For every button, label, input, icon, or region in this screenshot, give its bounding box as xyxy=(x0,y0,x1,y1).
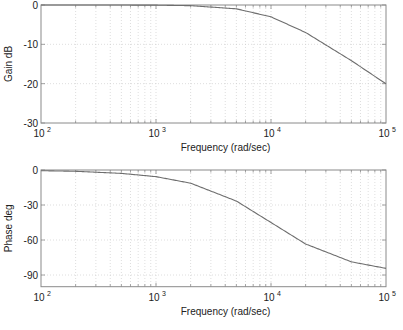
gain-axes: 0-10-20-30102103104105Frequency (rad/sec… xyxy=(3,0,396,153)
x-tick-label: 10 xyxy=(148,292,160,303)
x-tick-label: 10 xyxy=(263,292,275,303)
x-tick-exponent: 2 xyxy=(47,290,51,297)
x-tick-exponent: 3 xyxy=(162,126,166,133)
x-tick-exponent: 4 xyxy=(277,290,281,297)
response-curve xyxy=(41,171,386,269)
x-tick-label: 10 xyxy=(378,292,390,303)
y-tick-label: -10 xyxy=(24,39,39,50)
x-tick-label: 10 xyxy=(33,292,45,303)
x-tick-exponent: 3 xyxy=(162,290,166,297)
x-tick-exponent: 2 xyxy=(47,126,51,133)
x-tick-label: 10 xyxy=(378,128,390,139)
y-axis-label: Phase deg xyxy=(3,204,14,252)
x-tick-label: 10 xyxy=(263,128,275,139)
x-tick-exponent: 5 xyxy=(392,126,396,133)
y-axis-label: Gain dB xyxy=(3,46,14,82)
x-axis-label: Frequency (rad/sec) xyxy=(181,142,270,153)
axes-frame xyxy=(41,170,386,287)
y-tick-label: -30 xyxy=(24,200,39,211)
y-tick-label: 0 xyxy=(32,165,38,176)
y-tick-label: -20 xyxy=(24,79,39,90)
x-tick-exponent: 4 xyxy=(277,126,281,133)
phase-axes: 0-30-60-90102103104105Frequency (rad/sec… xyxy=(3,165,396,317)
y-tick-label: 0 xyxy=(32,0,38,11)
x-tick-exponent: 5 xyxy=(392,290,396,297)
x-tick-label: 10 xyxy=(148,128,160,139)
bode-plot-figure: 0-10-20-30102103104105Frequency (rad/sec… xyxy=(0,0,403,330)
y-tick-label: -60 xyxy=(24,235,39,246)
y-tick-label: -90 xyxy=(24,270,39,281)
axes-frame xyxy=(41,5,386,123)
x-tick-label: 10 xyxy=(33,128,45,139)
x-axis-label: Frequency (rad/sec) xyxy=(181,306,270,317)
